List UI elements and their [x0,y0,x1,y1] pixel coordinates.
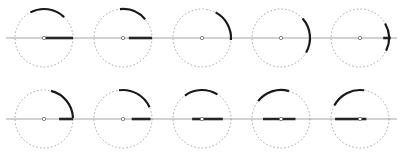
panels-group [15,9,391,148]
sweep-arc-7 [119,90,150,107]
sweep-arc-2 [120,9,145,19]
arc-progression-figure [0,0,403,160]
center-dot-6 [42,117,45,120]
center-dot-2 [121,36,124,39]
center-dot-5 [358,36,361,39]
center-dot-3 [200,36,203,39]
center-dot-8 [200,117,203,120]
sweep-arc-3 [216,12,231,40]
axis-lines-group [6,38,397,119]
figure-container [0,0,403,160]
center-dot-10 [358,117,361,120]
center-dot-4 [279,36,282,39]
sweep-arc-1 [30,9,64,17]
sweep-arc-9 [258,90,289,101]
center-dot-9 [279,117,282,120]
sweep-arc-10 [334,90,364,105]
sweep-arc-4 [303,19,310,53]
sweep-arc-6 [51,91,73,118]
sweep-arc-8 [185,90,217,96]
center-dot-1 [42,36,45,39]
center-dot-7 [121,117,124,120]
